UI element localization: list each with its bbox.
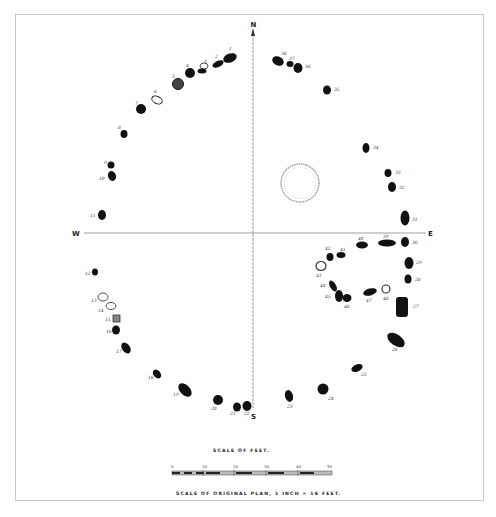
- svg-text:27: 27: [412, 304, 419, 309]
- svg-text:38: 38: [281, 51, 287, 56]
- svg-text:23: 23: [286, 404, 293, 409]
- svg-text:28: 28: [414, 277, 421, 282]
- svg-text:25: 25: [360, 372, 367, 377]
- svg-text:32: 32: [399, 185, 405, 190]
- stone-47: [362, 287, 377, 297]
- stone-33: [385, 169, 392, 177]
- svg-text:14: 14: [98, 308, 104, 313]
- stone-34: [363, 143, 370, 153]
- west-label: W: [72, 230, 80, 238]
- svg-text:9: 9: [104, 160, 107, 165]
- stone-11: [98, 210, 106, 220]
- stone-39: [378, 240, 396, 247]
- stone-16: [112, 326, 120, 335]
- stone-10: [107, 170, 118, 182]
- svg-text:45: 45: [324, 294, 331, 299]
- stone-41: [337, 252, 346, 258]
- svg-text:42: 42: [324, 246, 331, 251]
- stone-20: [213, 395, 223, 405]
- svg-text:41: 41: [339, 247, 346, 252]
- stone-43b: [316, 262, 326, 271]
- svg-text:37: 37: [289, 56, 295, 61]
- stone-9: [108, 162, 115, 169]
- stone-32: [388, 182, 396, 192]
- svg-text:35: 35: [334, 87, 340, 92]
- svg-text:40: 40: [357, 236, 364, 241]
- svg-text:20: 20: [233, 464, 239, 469]
- stone-13: [98, 293, 108, 301]
- svg-text:21: 21: [229, 411, 236, 416]
- stone-15: [113, 315, 120, 322]
- svg-text:10: 10: [202, 464, 208, 469]
- svg-text:40: 40: [296, 464, 302, 469]
- stone-27: [396, 297, 408, 317]
- stone-35: [323, 86, 331, 95]
- stone-2: [211, 59, 224, 70]
- svg-text:15: 15: [105, 317, 111, 322]
- north-arrow-icon: [251, 28, 255, 36]
- svg-text:20: 20: [210, 406, 217, 411]
- stone-29: [405, 257, 414, 269]
- svg-text:29: 29: [415, 260, 422, 265]
- svg-text:33: 33: [395, 170, 401, 175]
- stone-38: [271, 54, 286, 67]
- svg-text:3: 3: [204, 59, 207, 64]
- stone-5: [173, 79, 184, 90]
- svg-text:48: 48: [382, 296, 389, 301]
- stone-12: [92, 269, 98, 276]
- stone-14: [106, 303, 116, 310]
- svg-text:36: 36: [305, 64, 311, 69]
- stone-1: [222, 51, 238, 64]
- stone-31: [401, 211, 410, 226]
- svg-text:24: 24: [327, 396, 334, 401]
- svg-text:46: 46: [343, 304, 350, 309]
- svg-text:44: 44: [319, 283, 326, 288]
- scale-bar: SCALE OF FEET. 0 10 20 30 40 50 SCALE OF…: [171, 448, 342, 496]
- svg-text:22: 22: [243, 411, 250, 416]
- svg-text:5: 5: [172, 74, 175, 79]
- east-label: E: [428, 230, 433, 238]
- stone-44: [327, 279, 338, 292]
- svg-text:18: 18: [148, 375, 154, 380]
- svg-text:50: 50: [327, 464, 333, 469]
- stone-circle-plan: N S E W: [0, 0, 496, 517]
- stone-4: [185, 68, 195, 78]
- north-label: N: [251, 21, 257, 29]
- stone-28: [405, 275, 412, 284]
- svg-text:17: 17: [116, 349, 122, 354]
- stone-37: [287, 61, 294, 67]
- svg-text:12: 12: [85, 271, 91, 276]
- stone-46: [343, 294, 352, 302]
- stone-22: [243, 401, 252, 411]
- svg-text:26: 26: [391, 347, 398, 352]
- stone-40: [356, 242, 368, 249]
- south-label: S: [251, 413, 256, 421]
- svg-text:4: 4: [185, 63, 189, 68]
- svg-text:8: 8: [118, 125, 121, 130]
- svg-text:30: 30: [264, 464, 270, 469]
- stone-30: [401, 237, 409, 247]
- scale-caption: SCALE OF ORIGINAL PLAN, 1 INCH = 16 FEET…: [176, 491, 342, 496]
- svg-text:30: 30: [412, 240, 418, 245]
- stone-8: [121, 130, 128, 138]
- stone-36: [294, 63, 303, 73]
- svg-text:0: 0: [171, 464, 174, 469]
- stone-45: [335, 290, 343, 302]
- stone-48: [382, 285, 390, 293]
- stone-42: [327, 253, 334, 261]
- svg-text:39: 39: [383, 234, 389, 239]
- svg-text:1: 1: [229, 46, 232, 51]
- svg-text:47: 47: [365, 298, 372, 303]
- svg-text:11: 11: [90, 213, 96, 218]
- svg-text:34: 34: [373, 145, 379, 150]
- stone-3: [198, 69, 207, 74]
- svg-text:16: 16: [106, 329, 112, 334]
- svg-text:31: 31: [412, 217, 418, 222]
- svg-text:2: 2: [214, 54, 218, 59]
- central-ring: [281, 164, 319, 202]
- stone-23: [284, 389, 295, 403]
- stone-24: [318, 384, 329, 395]
- svg-text:43: 43: [315, 273, 322, 278]
- scale-title: SCALE OF FEET.: [213, 448, 270, 453]
- svg-text:7: 7: [135, 101, 138, 106]
